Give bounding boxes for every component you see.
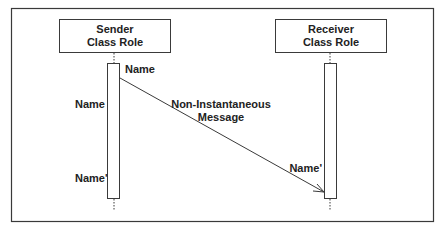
message-label-line2: Message — [198, 111, 244, 123]
receiver-name: Receiver — [308, 23, 355, 35]
arrowhead-icon — [313, 184, 324, 192]
message-arrow-line[interactable] — [120, 78, 324, 192]
sequence-diagram: Sender Class Role Receiver Class Role Na… — [0, 0, 441, 229]
receiver-class-role[interactable]: Receiver Class Role — [276, 20, 387, 53]
non-instantaneous-message[interactable] — [120, 78, 324, 192]
sender-role: Class Role — [87, 36, 143, 48]
sender-activation-bar[interactable] — [108, 64, 120, 199]
receiver-role: Class Role — [303, 36, 359, 48]
receive-event-label: Name' — [289, 162, 322, 174]
sender-class-role[interactable]: Sender Class Role — [60, 20, 171, 53]
sender-name: Sender — [96, 23, 134, 35]
receiver-activation-bar[interactable] — [325, 64, 337, 199]
sender-start-label: Name — [75, 98, 105, 110]
message-label-line1: Non-Instantaneous — [171, 98, 271, 110]
send-event-label: Name — [125, 63, 155, 75]
sender-end-label: Name' — [75, 172, 108, 184]
